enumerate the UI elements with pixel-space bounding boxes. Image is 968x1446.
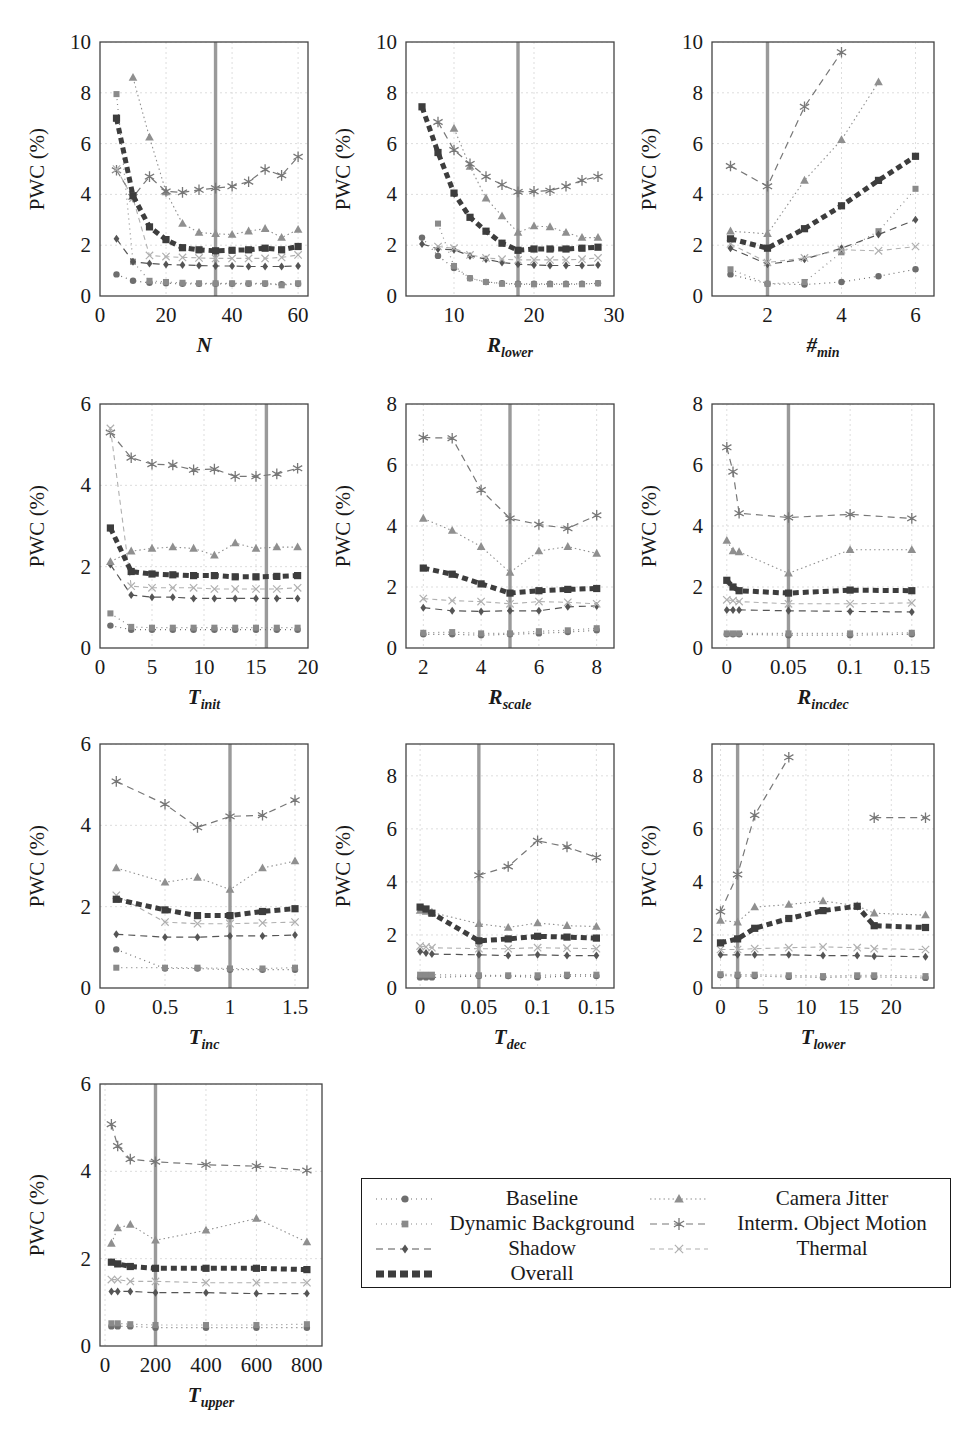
legend-item-overall: Overall <box>368 1261 642 1286</box>
svg-text:2: 2 <box>693 575 704 599</box>
svg-text:10: 10 <box>682 30 703 54</box>
chart-panel-N: 02468100204060PWC (%)N <box>18 16 324 368</box>
svg-text:2: 2 <box>387 923 398 947</box>
legend-marker-thermal-icon <box>642 1238 716 1260</box>
svg-text:6: 6 <box>81 392 92 416</box>
svg-text:4: 4 <box>693 870 704 894</box>
svg-text:6: 6 <box>693 453 704 477</box>
legend-row: Baseline Camera Jitter <box>368 1186 944 1211</box>
legend-label: Dynamic Background <box>442 1211 642 1236</box>
svg-text:PWC (%): PWC (%) <box>25 485 49 567</box>
svg-text:6: 6 <box>534 655 545 679</box>
svg-text:2: 2 <box>81 555 92 579</box>
svg-text:20: 20 <box>156 303 177 327</box>
svg-text:0: 0 <box>95 655 106 679</box>
svg-text:30: 30 <box>604 303 625 327</box>
svg-text:0: 0 <box>81 284 92 308</box>
svg-text:40: 40 <box>222 303 243 327</box>
legend-label: Baseline <box>442 1186 642 1211</box>
legend-item-baseline: Baseline <box>368 1186 642 1211</box>
svg-text:6: 6 <box>693 132 704 156</box>
svg-text:8: 8 <box>591 655 602 679</box>
svg-text:2: 2 <box>693 923 704 947</box>
svg-text:0: 0 <box>95 995 106 1019</box>
svg-text:0: 0 <box>81 1334 92 1358</box>
chart-panel-T_init: 024605101520PWC (%)Tinit <box>18 378 324 720</box>
legend-marker-interm_object_motion-icon <box>642 1213 716 1235</box>
svg-text:4: 4 <box>693 514 704 538</box>
svg-text:6: 6 <box>81 732 92 756</box>
svg-text:1.5: 1.5 <box>282 995 308 1019</box>
svg-text:4: 4 <box>81 1159 92 1183</box>
svg-text:1: 1 <box>225 995 236 1019</box>
svg-text:0: 0 <box>387 636 398 660</box>
svg-text:PWC (%): PWC (%) <box>25 128 49 210</box>
legend-item-shadow: Shadow <box>368 1236 642 1261</box>
legend-box: Baseline Camera Jitter Dynamic Backgroun… <box>361 1178 951 1288</box>
svg-text:8: 8 <box>387 81 398 105</box>
svg-text:0: 0 <box>81 636 92 660</box>
chart-panel-T_dec: 0246800.050.10.15PWC (%)Tdec <box>324 718 630 1060</box>
svg-text:6: 6 <box>387 817 398 841</box>
svg-text:6: 6 <box>387 132 398 156</box>
svg-text:0: 0 <box>693 636 704 660</box>
svg-text:0: 0 <box>387 284 398 308</box>
svg-text:2: 2 <box>418 655 429 679</box>
svg-text:PWC (%): PWC (%) <box>331 128 355 210</box>
svg-text:8: 8 <box>387 764 398 788</box>
svg-text:0: 0 <box>415 995 426 1019</box>
svg-text:PWC (%): PWC (%) <box>331 825 355 907</box>
svg-text:0.1: 0.1 <box>524 995 550 1019</box>
svg-text:2: 2 <box>81 233 92 257</box>
svg-text:2: 2 <box>81 1247 92 1271</box>
legend-item-thermal: Thermal <box>642 1236 948 1261</box>
svg-text:0: 0 <box>387 976 398 1000</box>
svg-text:0: 0 <box>81 976 92 1000</box>
chart-panel-R_incdec: 0246800.050.10.15PWC (%)Rincdec <box>630 378 950 720</box>
svg-text:2: 2 <box>693 233 704 257</box>
svg-text:10: 10 <box>376 30 397 54</box>
svg-text:200: 200 <box>140 1353 172 1377</box>
svg-text:PWC (%): PWC (%) <box>637 128 661 210</box>
svg-text:10: 10 <box>194 655 215 679</box>
svg-text:4: 4 <box>387 514 398 538</box>
svg-text:0.05: 0.05 <box>460 995 497 1019</box>
svg-text:4: 4 <box>476 655 487 679</box>
svg-text:8: 8 <box>693 392 704 416</box>
legend-label: Interm. Object Motion <box>716 1211 948 1236</box>
legend-item-camera_jitter: Camera Jitter <box>642 1186 948 1211</box>
svg-text:5: 5 <box>758 995 769 1019</box>
svg-text:4: 4 <box>81 813 92 837</box>
svg-text:0.15: 0.15 <box>578 995 615 1019</box>
svg-text:20: 20 <box>524 303 545 327</box>
svg-text:8: 8 <box>387 392 398 416</box>
svg-text:PWC (%): PWC (%) <box>331 485 355 567</box>
legend-item-interm_object_motion: Interm. Object Motion <box>642 1211 948 1236</box>
legend-item-dynamic_background: Dynamic Background <box>368 1211 642 1236</box>
chart-panel-hash_min: 0246810246PWC (%)#min <box>630 16 950 368</box>
svg-text:4: 4 <box>387 182 398 206</box>
legend-marker-baseline-icon <box>368 1188 442 1210</box>
legend-row: Shadow Thermal <box>368 1236 944 1261</box>
svg-text:0: 0 <box>100 1353 111 1377</box>
svg-text:20: 20 <box>881 995 902 1019</box>
svg-text:PWC (%): PWC (%) <box>637 485 661 567</box>
svg-text:15: 15 <box>838 995 859 1019</box>
svg-text:0: 0 <box>693 976 704 1000</box>
svg-text:2: 2 <box>81 895 92 919</box>
svg-text:20: 20 <box>298 655 319 679</box>
svg-text:8: 8 <box>693 764 704 788</box>
legend-label: Overall <box>442 1261 642 1286</box>
svg-text:2: 2 <box>387 575 398 599</box>
legend-row: Overall <box>368 1261 944 1286</box>
svg-text:0.1: 0.1 <box>837 655 863 679</box>
svg-text:6: 6 <box>693 817 704 841</box>
svg-text:8: 8 <box>81 81 92 105</box>
legend-label: Thermal <box>716 1236 948 1261</box>
svg-text:0: 0 <box>715 995 726 1019</box>
svg-text:6: 6 <box>81 132 92 156</box>
svg-text:4: 4 <box>81 473 92 497</box>
legend-label: Camera Jitter <box>716 1186 948 1211</box>
svg-text:400: 400 <box>190 1353 222 1377</box>
svg-text:600: 600 <box>241 1353 273 1377</box>
